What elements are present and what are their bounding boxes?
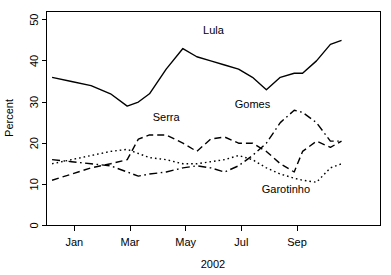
y-axis-ticks: 01020304050 [28,14,46,229]
series-label-serra: Serra [153,111,181,123]
y-tick-label: 20 [28,137,40,149]
y-tick-label: 40 [28,55,40,67]
x-tick-label: Jan [65,236,83,248]
y-tick-label: 0 [28,222,40,228]
x-axis-ticks: JanMarMayJulSep [65,226,306,248]
chart-svg: 01020304050 JanMarMayJulSep LulaSerraGom… [0,0,391,275]
series-line-lula [52,40,341,106]
series-line-garotinho [52,149,341,182]
series-label-gomes: Gomes [235,98,271,110]
y-tick-label: 10 [28,178,40,190]
x-axis-title: 2002 [201,258,225,270]
series-lines [52,40,341,182]
x-tick-label: Sep [287,236,307,248]
y-axis-title: Percent [3,99,15,137]
x-tick-label: Jul [234,236,248,248]
poll-line-chart: 01020304050 JanMarMayJulSep LulaSerraGom… [0,0,391,275]
x-tick-label: May [175,236,196,248]
series-label-garotinho: Garotinho [262,183,310,195]
series-label-lula: Lula [203,24,225,36]
y-tick-label: 30 [28,96,40,108]
y-tick-label: 50 [28,14,40,26]
series-line-serra [52,135,341,180]
x-tick-label: Mar [121,236,140,248]
plot-frame [47,12,381,226]
